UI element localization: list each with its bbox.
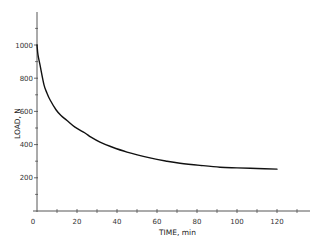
y-tick-label: 800 [20,75,33,83]
load-time-chart: 020406080100120 2004006008001000 TIME, m… [0,0,321,246]
x-tick-label: 120 [270,218,283,226]
chart-axes: 020406080100120 2004006008001000 [15,12,310,226]
load-curve [37,45,277,169]
y-tick-label: 1000 [15,42,33,50]
y-tick-label: 400 [20,141,33,149]
y-tick-label: 200 [20,174,33,182]
x-tick-label: 100 [230,218,243,226]
y-axis-title: LOAD, N [13,108,22,139]
x-tick-label: 20 [73,218,82,226]
x-tick-label: 60 [153,218,162,226]
x-tick-label: 40 [113,218,122,226]
x-ticks: 020406080100120 [31,209,297,226]
x-tick-label: 80 [193,218,202,226]
x-axis-title: TIME, min [158,228,196,237]
x-tick-label: 0 [31,218,35,226]
